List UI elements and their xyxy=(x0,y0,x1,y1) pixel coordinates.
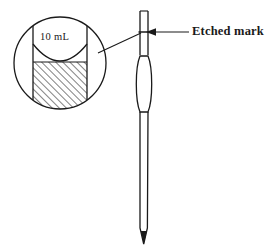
etched-mark-callout xyxy=(146,28,189,35)
meniscus-curve xyxy=(33,44,87,61)
etched-mark-label: Etched mark xyxy=(192,24,264,39)
volumetric-pipette-group xyxy=(136,11,151,244)
pipette-upper-stem xyxy=(140,11,148,55)
meniscus-detail-group xyxy=(14,14,106,116)
pipette-figure: Etched mark 10 mL xyxy=(0,0,279,250)
pipette-lower-stem xyxy=(140,112,148,244)
volume-label: 10 mL xyxy=(40,31,69,42)
magnifier-leader-line xyxy=(98,33,141,53)
pipette-bulb xyxy=(136,56,151,112)
liquid-hatched-region xyxy=(33,62,87,115)
